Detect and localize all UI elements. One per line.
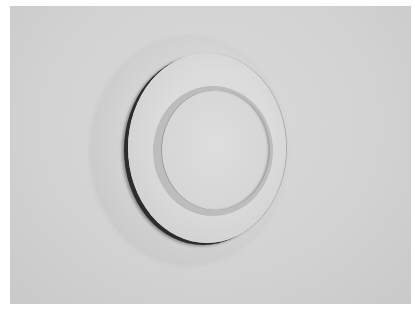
diffuser-center-cap — [161, 90, 270, 210]
photo — [10, 6, 411, 304]
